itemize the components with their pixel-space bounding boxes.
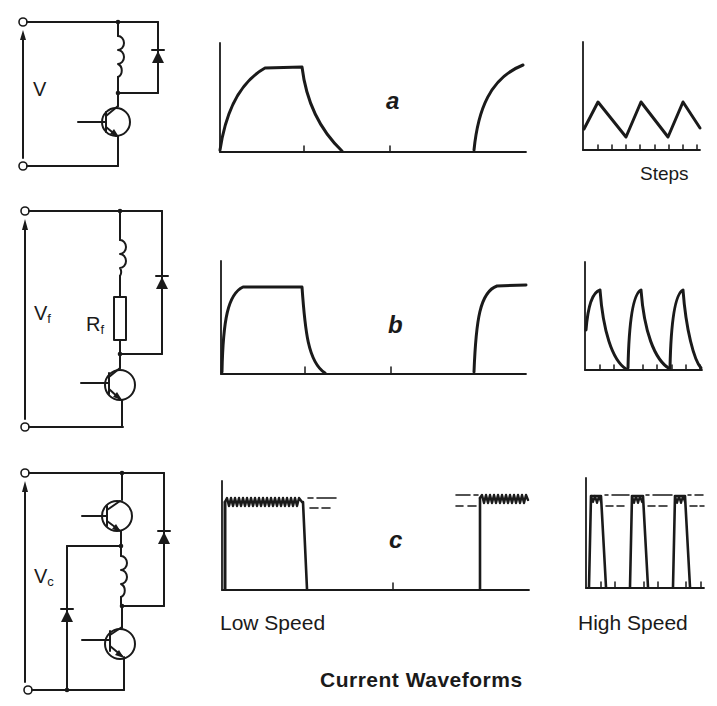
waveform-letter-c: c — [389, 526, 402, 554]
waveform-b-high-speed — [585, 262, 702, 370]
diode-icon — [120, 211, 168, 354]
voltage-label-a: V — [33, 78, 46, 101]
inductor-icon — [120, 211, 126, 297]
voltage-label-b: Vf — [34, 302, 51, 325]
voltage-label-c: Vc — [34, 565, 54, 588]
left-diode-icon — [61, 546, 121, 690]
voltage-arrow-icon — [20, 30, 26, 158]
waveform-c-low-speed — [222, 481, 529, 590]
resistor-icon — [114, 297, 126, 340]
terminal-bottom — [21, 423, 29, 431]
waveform-b-low-speed — [221, 261, 526, 374]
terminal-top — [21, 207, 29, 215]
voltage-arrow-icon — [22, 481, 28, 682]
inductor-icon — [121, 546, 127, 606]
waveform-c-high-speed — [586, 478, 704, 588]
upper-transistor-icon — [82, 473, 132, 546]
figure-title: Current Waveforms — [320, 668, 523, 692]
terminal-top — [19, 18, 27, 26]
resistor-label-b: Rf — [86, 313, 104, 336]
transistor-icon — [78, 93, 130, 166]
waveform-letter-b: b — [388, 311, 403, 339]
waveform-a-high-speed — [583, 42, 700, 150]
inductor-icon — [118, 22, 124, 93]
waveform-letter-a: a — [386, 87, 399, 115]
steps-label: Steps — [640, 163, 689, 185]
low-speed-label: Low Speed — [220, 611, 325, 635]
voltage-arrow-icon — [22, 219, 28, 419]
right-diode-icon — [122, 473, 170, 606]
high-speed-label: High Speed — [578, 611, 688, 635]
waveform-a-low-speed — [220, 43, 526, 152]
lower-transistor-icon — [82, 606, 135, 690]
terminal-top — [21, 469, 29, 477]
terminal-bottom — [24, 686, 32, 694]
transistor-icon — [81, 354, 135, 427]
terminal-bottom — [19, 162, 27, 170]
